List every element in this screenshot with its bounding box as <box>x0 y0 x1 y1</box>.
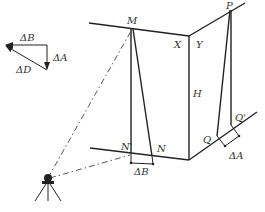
diagram-canvas: ΔB ΔA ΔD <box>0 0 265 212</box>
line-p-q <box>217 10 230 136</box>
label-n: N <box>156 143 167 154</box>
bracket-dot <box>130 162 133 165</box>
label-q: Q <box>203 134 211 145</box>
label-delta-b: ΔB <box>133 166 149 177</box>
label-x: X <box>173 39 182 50</box>
bracket-dot <box>238 135 241 138</box>
vector-triangle: ΔB ΔA ΔD <box>6 32 67 75</box>
label-q-prime: Q' <box>235 112 246 123</box>
bracket-right <box>231 125 239 136</box>
line-m-n <box>133 29 152 156</box>
building-outline <box>89 3 257 160</box>
bottom-left-edge <box>90 148 189 160</box>
label-h: H <box>192 88 202 99</box>
label-p: P <box>225 0 233 11</box>
bottom-right-edge <box>189 112 257 160</box>
sight-line-to-n-prime <box>50 155 130 178</box>
label-m: M <box>126 15 138 26</box>
bracket-dot <box>152 163 155 166</box>
label-y: Y <box>196 39 204 50</box>
label-delta-d-vector: ΔD <box>15 64 31 75</box>
bracket-dot <box>224 145 227 148</box>
label-n-prime: N' <box>120 141 133 152</box>
top-right-edge <box>189 3 245 36</box>
left-face-lines <box>130 29 155 165</box>
label-delta-a-vector: ΔA <box>52 52 67 63</box>
total-station-icon <box>35 174 61 201</box>
label-delta-a: ΔA <box>228 150 243 161</box>
top-left-edge <box>89 23 189 36</box>
bracket-bar <box>225 136 239 146</box>
bracket-bar <box>131 163 153 164</box>
label-delta-b-vector: ΔB <box>19 32 35 43</box>
